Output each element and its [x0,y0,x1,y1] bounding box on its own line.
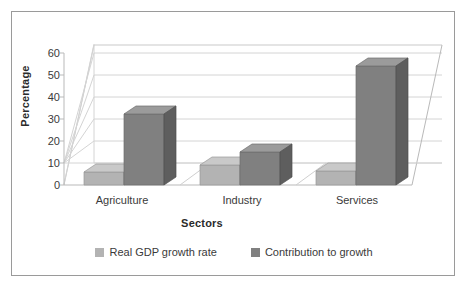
x-tick-label-services: Services [302,194,412,206]
legend-swatch-icon-series1 [95,248,104,257]
legend-item-contribution-to-growth[interactable]: Contribution to growth [251,246,373,258]
chart-legend: Real GDP growth rate Contribution to gro… [12,246,456,258]
x-tick-label-industry: Industry [187,194,297,206]
chart-bars [12,12,456,277]
bar-services-contribution-to-growth [356,58,408,185]
chart-plot-area: Percentage Sectors 60 50 40 30 20 10 0 [12,12,456,277]
bar-industry-contribution-to-growth [240,144,292,185]
legend-item-real-gdp-growth-rate[interactable]: Real GDP growth rate [95,246,216,258]
legend-label-series1: Real GDP growth rate [109,246,216,258]
legend-label-series2: Contribution to growth [265,246,373,258]
legend-swatch-icon-series2 [251,248,260,257]
chart-frame: Percentage Sectors 60 50 40 30 20 10 0 [11,11,455,276]
x-tick-label-agriculture: Agriculture [67,194,177,206]
bar-agriculture-contribution-to-growth [124,106,176,185]
